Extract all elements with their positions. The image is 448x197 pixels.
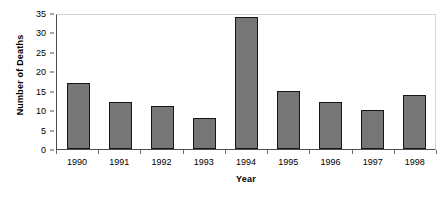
x-axis-tick-mark xyxy=(56,150,57,154)
bar-slot xyxy=(57,15,99,149)
x-axis-title: Year xyxy=(56,174,436,184)
y-axis-tick-labels: 05101520253035 xyxy=(26,14,50,150)
y-axis-title-text: Number of Deaths xyxy=(15,35,25,116)
y-axis-tick-label: 15 xyxy=(36,87,46,96)
y-axis-tick-mark xyxy=(50,130,54,131)
bar-slot xyxy=(183,15,225,149)
y-axis-tick-label: 10 xyxy=(36,107,46,116)
x-axis-tick-label: 1996 xyxy=(309,156,351,170)
x-axis-tick-label: 1997 xyxy=(352,156,394,170)
bar xyxy=(235,17,258,149)
x-axis-tick-mark xyxy=(394,150,395,154)
bar xyxy=(193,118,216,149)
bar xyxy=(109,102,132,149)
x-axis-tick-label: 1994 xyxy=(225,156,267,170)
bar-slot xyxy=(309,15,351,149)
x-axis-tick-label: 1991 xyxy=(98,156,140,170)
x-axis-tick-marks xyxy=(56,150,436,155)
bar-slot xyxy=(225,15,267,149)
y-axis-tick-mark xyxy=(50,72,54,73)
bar-slot xyxy=(393,15,435,149)
bar xyxy=(403,95,426,149)
bar-slot xyxy=(99,15,141,149)
bar xyxy=(67,83,90,149)
x-axis-tick-label: 1992 xyxy=(140,156,182,170)
bar xyxy=(151,106,174,149)
bar xyxy=(319,102,342,149)
y-axis-tick-mark xyxy=(50,91,54,92)
y-axis-tick-label: 35 xyxy=(36,10,46,19)
y-axis-tick-mark xyxy=(50,150,54,151)
x-axis-tick-label: 1993 xyxy=(183,156,225,170)
bar-slot xyxy=(267,15,309,149)
y-axis-tick-label: 30 xyxy=(36,29,46,38)
x-axis-tick-label: 1990 xyxy=(56,156,98,170)
bar xyxy=(361,110,384,149)
bar-slot xyxy=(351,15,393,149)
bar xyxy=(277,91,300,149)
y-axis-tick-label: 0 xyxy=(41,146,46,155)
y-axis-tick-mark xyxy=(50,52,54,53)
bar-slot xyxy=(141,15,183,149)
bar-chart: Number of Deaths 05101520253035 19901991… xyxy=(0,0,448,197)
x-axis-tick-label: 1998 xyxy=(394,156,436,170)
x-axis-tick-mark xyxy=(225,150,226,154)
x-axis-tick-mark xyxy=(309,150,310,154)
x-axis-tick-mark xyxy=(352,150,353,154)
x-axis-tick-mark xyxy=(436,150,437,154)
y-axis-tick-mark xyxy=(50,14,54,15)
y-axis-tick-mark xyxy=(50,111,54,112)
y-axis-tick-mark xyxy=(50,33,54,34)
y-axis-tick-label: 25 xyxy=(36,48,46,57)
x-axis-tick-mark xyxy=(98,150,99,154)
x-axis-tick-mark xyxy=(267,150,268,154)
x-axis-tick-mark xyxy=(140,150,141,154)
y-axis-tick-label: 5 xyxy=(41,126,46,135)
y-axis-tick-label: 20 xyxy=(36,68,46,77)
x-axis-tick-labels: 199019911992199319941995199619971998 xyxy=(56,156,436,170)
x-axis-tick-label: 1995 xyxy=(267,156,309,170)
plot-area xyxy=(56,14,436,150)
bar-series xyxy=(57,15,435,149)
x-axis-tick-mark xyxy=(183,150,184,154)
